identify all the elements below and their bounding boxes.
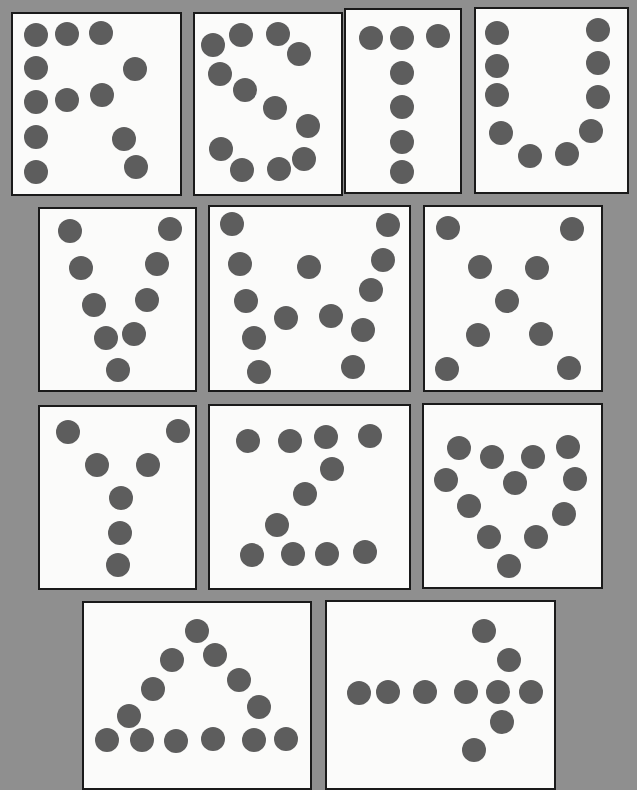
- dot-icon: [247, 360, 271, 384]
- card-x: [423, 205, 603, 392]
- dot-icon: [89, 21, 113, 45]
- dot-icon: [586, 51, 610, 75]
- dot-icon: [242, 728, 266, 752]
- dot-icon: [106, 358, 130, 382]
- dot-icon: [586, 85, 610, 109]
- card-triangle: [82, 601, 312, 790]
- dot-icon: [447, 436, 471, 460]
- dot-icon: [24, 125, 48, 149]
- dot-icon: [234, 289, 258, 313]
- dot-icon: [477, 525, 501, 549]
- dot-icon: [109, 486, 133, 510]
- dot-icon: [457, 494, 481, 518]
- dot-icon: [472, 619, 496, 643]
- dot-icon: [518, 144, 542, 168]
- dot-icon: [495, 289, 519, 313]
- dot-icon: [319, 304, 343, 328]
- dot-icon: [521, 445, 545, 469]
- dot-icon: [267, 157, 291, 181]
- dot-icon: [85, 453, 109, 477]
- dot-icon: [296, 114, 320, 138]
- dot-icon: [55, 88, 79, 112]
- dot-icon: [247, 695, 271, 719]
- dot-icon: [24, 23, 48, 47]
- dot-icon: [485, 21, 509, 45]
- dot-icon: [497, 648, 521, 672]
- dot-icon: [347, 681, 371, 705]
- dot-icon: [106, 553, 130, 577]
- dot-icon: [236, 429, 260, 453]
- dot-icon: [240, 543, 264, 567]
- dot-icon: [390, 61, 414, 85]
- dot-icon: [390, 130, 414, 154]
- dot-icon: [287, 42, 311, 66]
- dot-icon: [266, 22, 290, 46]
- dot-icon: [353, 540, 377, 564]
- dot-icon: [265, 513, 289, 537]
- dot-icon: [435, 357, 459, 381]
- dot-icon: [185, 619, 209, 643]
- dot-icon: [24, 90, 48, 114]
- dot-icon: [552, 502, 576, 526]
- dot-icon: [220, 212, 244, 236]
- dot-icon: [436, 216, 460, 240]
- dot-icon: [55, 22, 79, 46]
- dot-icon: [24, 160, 48, 184]
- dot-icon: [278, 429, 302, 453]
- dot-icon: [376, 680, 400, 704]
- dot-icon: [281, 542, 305, 566]
- card-r: [11, 12, 182, 196]
- dot-icon: [230, 158, 254, 182]
- dot-icon: [524, 525, 548, 549]
- dot-icon: [351, 318, 375, 342]
- dot-icon: [145, 252, 169, 276]
- card-u: [474, 7, 629, 194]
- dot-icon: [579, 119, 603, 143]
- dot-icon: [263, 96, 287, 120]
- dot-icon: [462, 738, 486, 762]
- dot-icon: [376, 213, 400, 237]
- dot-icon: [123, 57, 147, 81]
- dot-icon: [90, 83, 114, 107]
- card-y: [38, 405, 197, 590]
- dot-icon: [24, 56, 48, 80]
- card-s: [193, 12, 343, 196]
- dot-icon: [359, 278, 383, 302]
- dot-icon: [320, 457, 344, 481]
- card-w: [208, 205, 411, 392]
- dot-icon: [390, 95, 414, 119]
- dot-icon: [69, 256, 93, 280]
- dot-icon: [201, 727, 225, 751]
- dot-icon: [525, 256, 549, 280]
- dot-icon: [434, 468, 458, 492]
- dot-icon: [293, 482, 317, 506]
- card-z: [208, 404, 411, 590]
- dot-icon: [390, 26, 414, 50]
- dot-icon: [413, 680, 437, 704]
- dot-icon: [56, 420, 80, 444]
- dot-icon: [164, 729, 188, 753]
- dot-icon: [95, 728, 119, 752]
- dot-icon: [208, 62, 232, 86]
- dot-icon: [586, 18, 610, 42]
- dot-icon: [135, 288, 159, 312]
- dot-icon: [390, 160, 414, 184]
- dot-icon: [292, 147, 316, 171]
- dot-icon: [117, 704, 141, 728]
- dot-icon: [233, 78, 257, 102]
- dot-icon: [468, 255, 492, 279]
- dot-icon: [485, 54, 509, 78]
- dot-icon: [166, 419, 190, 443]
- dot-icon: [201, 33, 225, 57]
- dot-icon: [426, 24, 450, 48]
- dot-icon: [556, 435, 580, 459]
- card-heart: [422, 403, 603, 589]
- dot-icon: [486, 680, 510, 704]
- dot-icon: [274, 727, 298, 751]
- dot-icon: [108, 521, 132, 545]
- dot-icon: [130, 728, 154, 752]
- card-arrow: [325, 600, 556, 790]
- dot-icon: [371, 248, 395, 272]
- dot-icon: [529, 322, 553, 346]
- dot-icon: [314, 425, 338, 449]
